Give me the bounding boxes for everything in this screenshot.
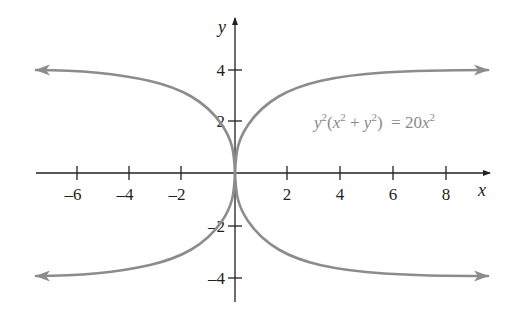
plot-area: –6 –4 –2 2 4 6 8 4 2 –2 –4 x y y2(x2 + y… — [0, 0, 508, 313]
y-axis-label: y — [216, 17, 226, 37]
x-tick-label: –4 — [116, 185, 135, 204]
x-tick-label: 8 — [442, 185, 451, 204]
curve-branch-upper-left — [36, 70, 235, 173]
x-tick-label: –2 — [168, 185, 186, 204]
x-tick-label: 6 — [389, 185, 398, 204]
x-tick-label: 4 — [336, 185, 345, 204]
x-tick-label: –6 — [64, 185, 82, 204]
y-tick-label: 4 — [217, 61, 226, 80]
x-axis-label: x — [477, 180, 486, 200]
x-tick-label: 2 — [283, 185, 292, 204]
equation-label: y2(x2 + y2) = 20x2 — [312, 111, 435, 132]
y-tick-label: –4 — [207, 269, 226, 288]
